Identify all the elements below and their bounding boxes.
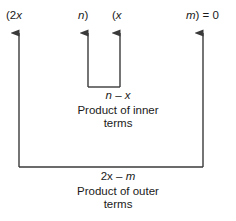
- inner-expression-operator: –: [115, 89, 121, 101]
- outer-terms-caption: 2x – m Product of outer terms: [0, 170, 236, 212]
- inner-expression-trail: x: [125, 89, 131, 101]
- inner-product-expression: n – x: [0, 89, 236, 103]
- outer-expression-lead: 2x: [101, 170, 113, 182]
- inner-caption-line-1: Product of inner: [0, 104, 236, 118]
- foil-method-diagram: (2x n) (x m) = 0 n – x Product of inner …: [0, 0, 236, 221]
- outer-caption-line-1: Product of outer: [0, 185, 236, 199]
- inner-expression-lead: n: [106, 89, 112, 101]
- inner-caption-line-2: terms: [0, 117, 236, 131]
- inner-terms-bracket: [88, 33, 120, 87]
- outer-caption-line-2: terms: [0, 198, 236, 212]
- outer-product-expression: 2x – m: [0, 170, 236, 184]
- outer-expression-operator: –: [116, 170, 122, 182]
- outer-expression-trail: m: [126, 170, 136, 182]
- inner-terms-caption: n – x Product of inner terms: [0, 89, 236, 131]
